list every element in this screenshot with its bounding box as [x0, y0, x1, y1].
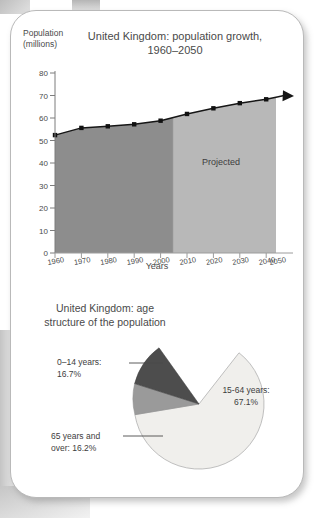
- pie-callout-15-64: 15-64 years: 67.1%: [207, 385, 285, 408]
- scan-artifact-top-middle: [72, 0, 100, 10]
- age-structure-chart: United Kingdom: age structure of the pop…: [11, 273, 303, 497]
- data-point-marker: [238, 101, 242, 105]
- area-fill-projected: [173, 97, 276, 253]
- svg-text:20: 20: [39, 204, 48, 213]
- data-point-marker: [158, 119, 162, 123]
- pie-callout-0-14: 0–14 years: 16.7%: [57, 357, 129, 380]
- x-axis-title: Years: [11, 261, 303, 271]
- trend-arrowhead: [283, 90, 295, 101]
- data-point-marker: [185, 112, 189, 116]
- data-point-marker: [264, 97, 268, 101]
- svg-text:50: 50: [39, 137, 48, 146]
- projected-region-label: Projected: [181, 157, 261, 167]
- svg-text:30: 30: [39, 182, 48, 191]
- data-point-marker: [106, 124, 110, 128]
- data-point-marker: [79, 126, 83, 130]
- svg-text:70: 70: [39, 92, 48, 101]
- svg-text:10: 10: [39, 227, 48, 236]
- svg-text:80: 80: [39, 69, 48, 78]
- svg-text:0: 0: [44, 249, 49, 258]
- population-growth-chart: Population (millions) United Kingdom: po…: [11, 11, 303, 273]
- figure-card: Population (millions) United Kingdom: po…: [10, 10, 304, 498]
- svg-text:60: 60: [39, 114, 48, 123]
- pie-callout-65-plus: 65 years and over: 16.2%: [51, 431, 133, 454]
- data-point-marker: [211, 106, 215, 110]
- y-axis-ticks: 80 70 60 50 40 30 20 10 0: [39, 69, 55, 258]
- svg-text:40: 40: [39, 159, 48, 168]
- area-fill-actual: [55, 118, 173, 253]
- data-point-marker: [132, 122, 136, 126]
- line-chart-plot: 80 70 60 50 40 30 20 10 0: [11, 11, 303, 273]
